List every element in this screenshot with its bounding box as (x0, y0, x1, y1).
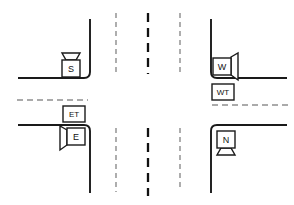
sensor-n[interactable]: N (217, 131, 235, 155)
lane-markings (17, 13, 288, 196)
sensor-wt-label: WT (217, 88, 230, 97)
sensor-w[interactable]: W (213, 53, 238, 80)
sensor-wt[interactable]: WT (212, 84, 234, 100)
sensor-et-label: ET (69, 110, 79, 119)
intersection-diagram: S W WT ET E N (0, 0, 294, 205)
sensor-n-label: N (223, 135, 230, 145)
sensor-w-label: W (218, 62, 227, 72)
camera-cone-east-icon (231, 53, 238, 80)
camera-cone-north-icon (62, 53, 80, 60)
sensor-e-label: E (73, 132, 79, 142)
intersection-canvas: S W WT ET E N (0, 0, 294, 205)
sensor-e[interactable]: E (60, 126, 85, 150)
sensor-s[interactable]: S (62, 53, 80, 77)
sensor-et[interactable]: ET (63, 106, 85, 122)
sensor-s-label: S (68, 64, 74, 74)
camera-cone-south-icon (217, 148, 235, 155)
road-curbs (18, 19, 287, 193)
camera-cone-west-icon (60, 126, 67, 150)
